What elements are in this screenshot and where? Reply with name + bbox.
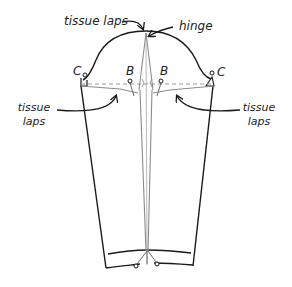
sleeve-diagram: tissue laps hinge C C B B tissue laps ti… <box>0 0 292 287</box>
sleeve-pattern-drawing <box>0 0 292 287</box>
arrow-tissue-laps-left <box>57 96 116 111</box>
label-b-left: B <box>126 66 134 77</box>
b-left-pin-shaft <box>130 83 134 96</box>
label-tissue-laps-right: tissue laps <box>241 102 277 127</box>
label-b-right: B <box>160 66 168 77</box>
lower-slash-right <box>148 90 152 251</box>
right-sleeve-seam <box>193 86 213 266</box>
hem-pin-right-icon <box>155 262 159 266</box>
b-right-pin-icon <box>159 79 163 83</box>
label-tissue-right-line1: tissue <box>241 102 277 113</box>
center-slash-right <box>146 33 153 90</box>
hem-edge <box>106 263 193 268</box>
label-c-left: C <box>73 66 81 77</box>
b-left-pin-icon <box>128 79 132 83</box>
label-c-right: C <box>217 67 225 78</box>
label-tissue-right-line2: laps <box>241 116 277 127</box>
hem-pin-left-icon <box>134 264 138 268</box>
c-left-pin-icon <box>83 73 87 77</box>
c-right-pin-icon <box>210 71 214 75</box>
label-hinge: hinge <box>179 21 213 32</box>
right-spread-line <box>153 86 214 93</box>
lower-slash-left <box>140 90 146 251</box>
center-slash-left <box>139 33 146 90</box>
left-spread-line <box>81 86 138 93</box>
hem-spread-lines <box>137 251 156 264</box>
b-right-pin-shaft <box>157 83 161 96</box>
label-tissue-left-line2: laps <box>16 116 52 127</box>
arrow-tissue-laps-right <box>177 96 240 111</box>
center-spread-marker <box>142 79 152 87</box>
label-tissue-laps-left: tissue laps <box>16 102 52 127</box>
label-tissue-laps-top: tissue laps <box>64 16 128 27</box>
label-tissue-left-line1: tissue <box>16 102 52 113</box>
center-line-inner <box>146 33 147 265</box>
left-sleeve-seam <box>81 86 106 268</box>
